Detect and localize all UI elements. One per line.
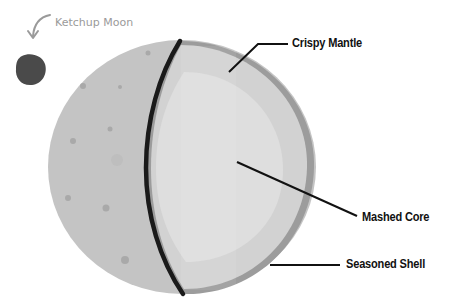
seasoned-shell-label: Seasoned Shell — [346, 257, 425, 271]
ketchup-moon — [16, 54, 46, 85]
crispy-mantle-label: Crispy Mantle — [292, 36, 362, 50]
ketchup-moon-label: Ketchup Moon — [55, 16, 133, 29]
mashed-core-label: Mashed Core — [362, 210, 429, 224]
